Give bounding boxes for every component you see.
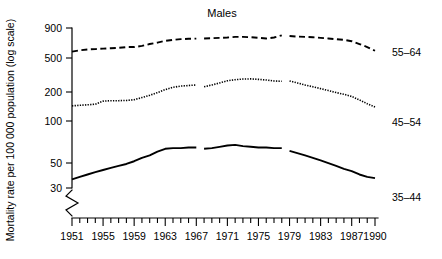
x-tick-label-1967: 1967	[185, 230, 209, 242]
page-title: Males	[207, 7, 237, 19]
x-tick-label-1987: 1987	[340, 230, 364, 242]
x-tick-label-1983: 1983	[309, 230, 333, 242]
y-tick-labels: 900 500 200 100 50 30	[44, 22, 62, 194]
series-55-64	[72, 35, 375, 51]
x-tick-labels: 1951195519591963196719711975197919831987…	[60, 230, 387, 242]
series-55-64-segment-0	[72, 39, 196, 52]
y-tick-label-900: 900	[44, 22, 62, 34]
series-35-44-segment-0	[72, 147, 196, 179]
series-45-54	[72, 79, 375, 107]
y-tick-label-500: 500	[44, 52, 62, 64]
x-tick-marks	[72, 218, 375, 226]
x-tick-label-1959: 1959	[122, 230, 146, 242]
x-tick-label-1963: 1963	[154, 230, 178, 242]
x-tick-label-1955: 1955	[91, 230, 115, 242]
series-55-64-segment-1	[204, 35, 282, 38]
x-tick-label-1951: 1951	[60, 230, 84, 242]
series-45-54-segment-2	[290, 81, 375, 107]
y-tick-label-200: 200	[44, 86, 62, 98]
series-35-44-segment-1	[204, 145, 282, 149]
y-tick-label-50: 50	[50, 157, 62, 169]
series-label-35-44: 35–44	[392, 191, 421, 203]
series-45-54-segment-1	[204, 79, 282, 87]
series-35-44-segment-2	[290, 151, 375, 178]
x-tick-label-1990: 1990	[363, 230, 387, 242]
y-tick-label-30: 30	[50, 182, 62, 194]
y-tick-label-100: 100	[44, 115, 62, 127]
series-45-54-segment-0	[72, 85, 196, 106]
data-series-layer	[72, 35, 375, 179]
series-label-45-54: 45–54	[392, 116, 421, 128]
series-55-64-segment-2	[290, 36, 375, 51]
series-35-44	[72, 145, 375, 180]
y-axis-title: Mortality rate per 100 000 population (l…	[4, 19, 16, 241]
x-tick-label-1975: 1975	[247, 230, 271, 242]
x-tick-label-1979: 1979	[278, 230, 302, 242]
chart-figure: Males Mortality rate per 100 000 populat…	[0, 0, 442, 259]
mortality-line-chart: Males Mortality rate per 100 000 populat…	[0, 0, 442, 259]
series-label-55-64: 55–64	[392, 46, 421, 58]
y-axis-break-icon	[66, 190, 78, 216]
y-tick-marks	[66, 28, 72, 188]
x-tick-label-1971: 1971	[216, 230, 240, 242]
